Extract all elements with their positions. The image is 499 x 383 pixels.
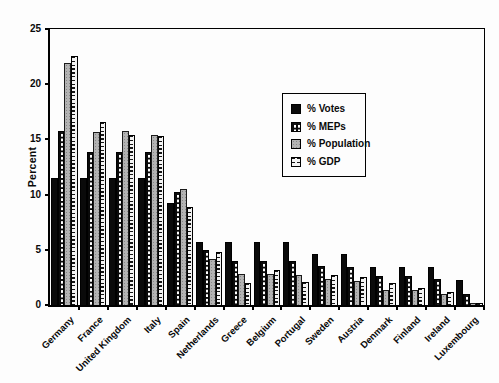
legend-item-gdp: % GDP xyxy=(291,155,358,169)
figure: Percent 0510152025 GermanyFranceUnited K… xyxy=(0,0,499,383)
legend-item-meps: % MEPs xyxy=(291,120,358,134)
bar-germany-gdp xyxy=(71,56,78,306)
legend-swatch-votes-icon xyxy=(291,104,301,114)
x-label-germany: Germany xyxy=(39,314,76,351)
bar-austria-gdp xyxy=(360,277,367,305)
x-tick-mark xyxy=(309,305,311,310)
bar-spain-population xyxy=(180,189,187,305)
bar-denmark-population xyxy=(383,290,390,305)
plot-area: Percent 0510152025 GermanyFranceUnited K… xyxy=(48,28,485,307)
legend-item-population: % Population xyxy=(291,137,358,151)
y-tick-mark xyxy=(45,138,50,140)
x-tick-mark xyxy=(194,305,196,310)
bar-denmark-gdp xyxy=(389,283,396,305)
bar-belgium-meps xyxy=(260,261,267,305)
y-tick-15: 15 xyxy=(4,134,50,144)
x-label-sweden: Sweden xyxy=(303,314,336,347)
x-tick-mark xyxy=(165,305,167,310)
bar-greece-gdp xyxy=(245,283,252,305)
y-tick-mark xyxy=(45,249,50,251)
legend-swatch-gdp-icon xyxy=(291,157,301,167)
x-label-finland: Finland xyxy=(391,314,423,346)
y-tick-mark xyxy=(45,304,50,306)
bar-sweden-gdp xyxy=(331,275,338,305)
bar-luxembourg-meps xyxy=(463,294,470,305)
bar-italy-meps xyxy=(145,152,152,305)
bar-greece-votes xyxy=(225,242,232,305)
x-tick-mark xyxy=(396,305,398,310)
x-label-italy: Italy xyxy=(141,314,162,335)
legend-label-meps: % MEPs xyxy=(307,122,346,132)
y-tick-25: 25 xyxy=(4,24,50,34)
bar-ireland-gdp xyxy=(447,292,454,305)
bar-finland-gdp xyxy=(418,288,425,305)
x-label-belgium: Belgium xyxy=(244,314,278,348)
x-tick-mark xyxy=(280,305,282,310)
bar-germany-population xyxy=(64,63,71,305)
x-tick-mark xyxy=(454,305,456,310)
x-tick-mark xyxy=(136,305,138,310)
y-axis-title: Percent xyxy=(26,147,38,188)
y-tick-mark xyxy=(45,28,50,30)
bar-united-kingdom-votes xyxy=(109,178,116,305)
bar-belgium-gdp xyxy=(274,270,281,305)
bar-luxembourg-gdp xyxy=(476,303,483,305)
y-tick-5: 5 xyxy=(4,245,50,255)
x-label-spain: Spain xyxy=(165,314,191,340)
bar-italy-gdp xyxy=(158,136,165,305)
bar-netherlands-gdp xyxy=(216,252,223,305)
legend: % Votes% MEPs% Population% GDP xyxy=(282,93,366,177)
x-label-portugal: Portugal xyxy=(272,314,307,349)
x-tick-mark xyxy=(107,305,109,310)
bar-portugal-gdp xyxy=(302,282,309,305)
bar-france-gdp xyxy=(100,122,107,305)
legend-item-votes: % Votes xyxy=(291,102,358,116)
x-tick-mark xyxy=(78,305,80,310)
y-tick-0: 0 xyxy=(4,300,50,310)
y-tick-mark xyxy=(45,83,50,85)
legend-label-gdp: % GDP xyxy=(307,157,340,167)
x-tick-mark xyxy=(338,305,340,310)
legend-label-votes: % Votes xyxy=(307,104,345,114)
x-tick-mark xyxy=(367,305,369,310)
bar-spain-gdp xyxy=(187,207,194,305)
legend-label-population: % Population xyxy=(307,139,370,149)
bar-austria-votes xyxy=(341,254,348,305)
x-tick-mark xyxy=(252,305,254,310)
bar-united-kingdom-gdp xyxy=(129,135,136,305)
y-tick-mark xyxy=(45,194,50,196)
y-tick-20: 20 xyxy=(4,79,50,89)
x-tick-mark xyxy=(425,305,427,310)
x-tick-mark xyxy=(223,305,225,310)
x-tick-mark xyxy=(483,305,485,310)
y-tick-10: 10 xyxy=(4,190,50,200)
legend-swatch-population-icon xyxy=(291,139,301,149)
legend-swatch-meps-icon xyxy=(291,122,301,132)
